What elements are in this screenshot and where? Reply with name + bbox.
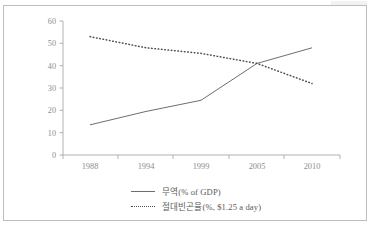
chart-legend: 무역(% of GDP) 절대빈곤율(%, $1.25 a day): [0, 183, 373, 213]
y-tick-label-60: 60: [48, 17, 56, 26]
x-tick-label-2005: 2005: [249, 162, 266, 171]
x-tick-label-1994: 1994: [138, 162, 156, 171]
y-tick-label-0: 0: [52, 151, 56, 160]
chart-figure: 60 50 40 30 20 10 0 1988 1994 1999 2005 …: [0, 0, 373, 228]
y-tick-label-50: 50: [48, 39, 56, 48]
series-line-poverty: [90, 37, 312, 84]
y-tick-label-40: 40: [48, 62, 56, 71]
y-axis-ticks: [60, 21, 64, 155]
legend-label-trade: 무역(% of GDP): [162, 185, 221, 197]
x-tick-label-1999: 1999: [193, 162, 210, 171]
legend-item-poverty: 절대빈곤율(%, $1.25 a day): [0, 198, 373, 213]
x-axis-ticks: [63, 155, 340, 159]
x-tick-label-2010: 2010: [304, 162, 321, 171]
legend-label-poverty: 절대빈곤율(%, $1.25 a day): [162, 200, 261, 212]
legend-item-trade: 무역(% of GDP): [0, 183, 373, 198]
y-tick-label-30: 30: [48, 84, 56, 93]
solid-line-icon: [131, 186, 155, 196]
x-tick-label-1988: 1988: [82, 162, 99, 171]
dotted-line-icon: [131, 201, 155, 211]
series-line-trade: [90, 48, 312, 125]
y-tick-label-10: 10: [48, 129, 56, 138]
y-tick-label-20: 20: [48, 106, 56, 115]
